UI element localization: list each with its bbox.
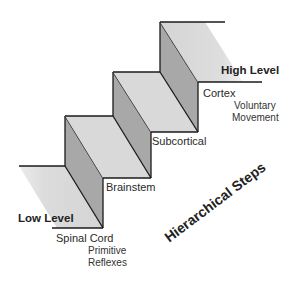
high-level-label: High Level (221, 64, 279, 76)
reflexes-label: Reflexes (88, 257, 127, 269)
primitive-label: Primitive (88, 245, 126, 257)
movement-label: Movement (232, 112, 279, 124)
spinal-cord-label: Spinal Cord (56, 232, 113, 244)
subcortical-label: Subcortical (152, 135, 206, 147)
low-level-label: Low Level (18, 212, 74, 224)
staircase-graphic (0, 0, 291, 281)
voluntary-label: Voluntary (234, 100, 276, 112)
cortex-label: Cortex (203, 87, 235, 99)
brainstem-label: Brainstem (106, 181, 156, 193)
